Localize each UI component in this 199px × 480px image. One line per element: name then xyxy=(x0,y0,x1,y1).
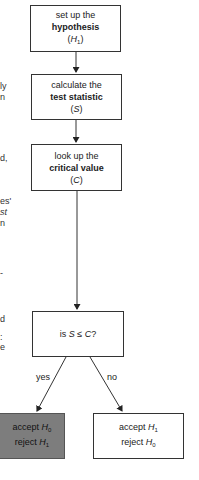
node-set-up-hypothesis: set up the hypothesis (H1) xyxy=(30,5,121,52)
node-text: set up the xyxy=(56,9,96,21)
node-calculate-test-statistic: calculate the test statistic (S) xyxy=(31,74,122,120)
accept-line: accept H0 xyxy=(13,421,52,436)
node-bold-text: hypothesis xyxy=(52,21,100,33)
reject-line: reject H0 xyxy=(121,436,155,451)
node-bold-text: test statistic xyxy=(50,91,103,103)
node-accept-alternative: accept H1 reject H0 xyxy=(93,413,184,459)
arrow-no xyxy=(90,357,122,411)
arrow-yes xyxy=(37,357,66,411)
edge-label-yes: yes xyxy=(36,372,50,382)
accept-line: accept H1 xyxy=(119,421,158,436)
node-bold-text: critical value xyxy=(49,162,104,174)
node-accept-null: accept H0 reject H1 xyxy=(0,413,65,459)
reject-line: reject H1 xyxy=(15,436,49,451)
node-symbol: (H1) xyxy=(68,33,84,48)
node-text: look up the xyxy=(54,150,98,162)
node-symbol: (S) xyxy=(70,103,82,115)
node-symbol: (C) xyxy=(70,174,83,186)
decision-text: is S ≤ C? xyxy=(60,328,96,340)
node-look-up-critical-value: look up the critical value (C) xyxy=(31,144,122,191)
node-text: calculate the xyxy=(51,79,102,91)
node-decision: is S ≤ C? xyxy=(32,311,124,357)
edge-label-no: no xyxy=(107,372,117,382)
flowchart-connectors xyxy=(0,0,199,480)
